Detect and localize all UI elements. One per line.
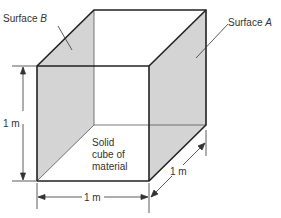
depth-label: 1 m bbox=[170, 166, 187, 177]
surface-b-face bbox=[37, 10, 94, 181]
surface-a-label: Surface A bbox=[228, 17, 272, 28]
body-label-line1: Solid bbox=[92, 137, 114, 148]
body-label-line3: material bbox=[92, 161, 128, 172]
surface-a-face bbox=[149, 10, 206, 181]
height-label: 1 m bbox=[3, 118, 20, 129]
width-label: 1 m bbox=[84, 192, 101, 203]
surface-b-label: Surface B bbox=[3, 13, 47, 24]
cube-diagram: Surface B Surface A Solid cube of materi… bbox=[0, 0, 281, 218]
body-label-line2: cube of bbox=[92, 149, 125, 160]
